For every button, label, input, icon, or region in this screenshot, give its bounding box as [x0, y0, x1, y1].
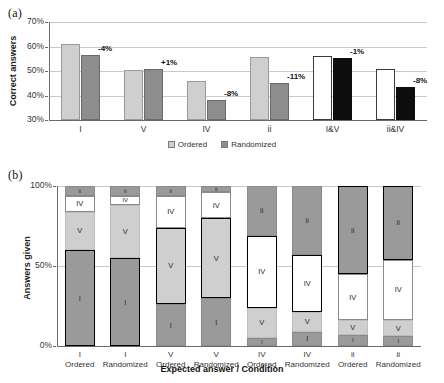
panel-b-x-expected-answer: I [79, 350, 81, 359]
panel-a-bar-V-randomized [144, 69, 163, 120]
panel-b-segment-ii: ii [292, 186, 322, 255]
panel-a-delta-label: -11% [287, 72, 305, 81]
panel-a-legend-label: Randomized [231, 140, 276, 149]
panel-a-delta-label: -1% [350, 47, 364, 56]
panel-a-y-tick: 70% [15, 16, 44, 26]
panel-b-segment-ii: ii [247, 186, 277, 236]
panel-b-segment-IV: IV [383, 260, 413, 321]
panel-a-bar-IV-ordered [187, 81, 206, 120]
panel-a-bar-I-V-ordered [313, 56, 332, 120]
panel-a-tick-mark [45, 120, 48, 121]
panel-b-segment-I: I [338, 335, 368, 346]
panel-b-segment-IV: IV [201, 192, 231, 218]
panel-b-segment-V: V [65, 212, 95, 250]
panel-b-y-axis [57, 186, 58, 346]
panel-a-delta-label: +1% [161, 58, 177, 67]
panel-b-x-expected-answer: V [214, 350, 219, 359]
panel-a-bar-I-V-randomized [333, 58, 352, 120]
panel-b-segment-ii: ii [201, 186, 231, 192]
panel-a-x-category: ii [238, 124, 301, 134]
legend-swatch-icon [221, 141, 228, 148]
panel-b-y-tick: 100% [21, 180, 52, 190]
panel-a-bar-ii-randomized [270, 83, 289, 120]
panel-b-segment-I: I [156, 304, 186, 346]
panel-b-x-expected-answer: ii [396, 350, 400, 359]
panel-a-bar-ii-IV-ordered [376, 69, 395, 120]
panel-a-x-category: I&V [301, 124, 364, 134]
panel-a-plot-area: 30%40%50%60%70%-4%I+1%V-8%IV-11%ii-1%I&V… [49, 22, 427, 120]
panel-a-bar-V-ordered [124, 70, 143, 120]
panel-a-delta-label: -8% [413, 76, 427, 85]
panel-a-tick-mark [45, 96, 48, 97]
panel-a-gridline [49, 120, 427, 121]
panel-b-segment-IV: IV [292, 255, 322, 313]
panel-a-gridline [49, 22, 427, 23]
legend-swatch-icon [168, 141, 175, 148]
panel-a-x-category: I [49, 124, 112, 134]
panel-b-segment-I: I [247, 338, 277, 346]
panel-a-x-category: ii&IV [364, 124, 427, 134]
panel-b-segment-IV: IV [65, 196, 95, 212]
panel-b-x-expected-answer: V [168, 350, 173, 359]
panel-b-segment-V: V [383, 320, 413, 336]
panel-a-gridline [49, 71, 427, 72]
panel-a-legend: OrderedRandomized [0, 140, 444, 149]
panel-b-segment-I: I [292, 332, 322, 346]
panel-b-segment-I: I [201, 298, 231, 346]
panel-a-bar-I-randomized [81, 55, 100, 120]
panel-b-x-expected-answer: I [124, 350, 126, 359]
panel-b-segment-V: V [201, 218, 231, 298]
panel-b-tick-mark [53, 266, 56, 267]
panel-a-y-axis [49, 22, 50, 120]
panel-b-segment-IV: IV [110, 196, 140, 206]
panel-b-segment-I: I [65, 250, 95, 346]
panel-b-segment-I: I [110, 258, 140, 346]
panel-b-x-expected-answer: IV [258, 350, 266, 359]
panel-b-plot-area: 0%50%100%IVIViiIOrderedIVIViiIRandomized… [57, 186, 421, 346]
panel-a-y-tick: 60% [15, 41, 44, 51]
panel-b-segment-V: V [156, 228, 186, 305]
panel-b-segment-V: V [292, 312, 322, 331]
panel-b-answers-given: (b) Answers given 0%50%100%IVIViiIOrdere… [0, 158, 444, 383]
panel-a-y-tick: 30% [15, 114, 44, 124]
panel-b-segment-IV: IV [247, 236, 277, 308]
panel-b-x-axis-title: Expected answer / Condition [0, 364, 444, 374]
panel-b-segment-IV: IV [338, 274, 368, 320]
panel-b-segment-ii: ii [383, 186, 413, 260]
panel-b-gridline [57, 346, 421, 347]
panel-b-segment-I: I [383, 336, 413, 346]
panel-b-x-expected-answer: ii [351, 350, 355, 359]
panel-b-segment-V: V [338, 320, 368, 334]
panel-a-bar-IV-randomized [207, 100, 226, 120]
panel-a-legend-label: Ordered [178, 140, 207, 149]
panel-b-segment-ii: ii [65, 186, 95, 196]
panel-b-tick-mark [53, 186, 56, 187]
panel-a-x-category: IV [175, 124, 238, 134]
panel-a-delta-label: -8% [224, 89, 238, 98]
panel-a-y-tick: 50% [15, 65, 44, 75]
panel-a-tick-mark [45, 71, 48, 72]
panel-a-x-category: V [112, 124, 175, 134]
panel-b-y-tick: 50% [21, 260, 52, 270]
panel-a-legend-item: Ordered [168, 140, 207, 149]
panel-b-y-tick: 0% [21, 340, 52, 350]
panel-a-tick-mark [45, 47, 48, 48]
panel-b-segment-ii: ii [110, 186, 140, 196]
panel-b-segment-IV: IV [156, 196, 186, 228]
panel-b-segment-ii: ii [338, 186, 368, 274]
panel-a-bar-ii-ordered [250, 57, 269, 120]
panel-b-segment-V: V [110, 205, 140, 258]
panel-a-legend-item: Randomized [221, 140, 276, 149]
panel-a-tick-mark [45, 22, 48, 23]
panel-b-segment-ii: ii [156, 186, 186, 196]
panel-b-segment-V: V [247, 308, 277, 338]
panel-a-bar-I-ordered [61, 44, 80, 120]
panel-a-bar-ii-IV-randomized [396, 87, 415, 120]
panel-a-correct-answers: (a) Correct answers 30%40%50%60%70%-4%I+… [0, 0, 444, 158]
panel-a-y-tick: 40% [15, 90, 44, 100]
panel-b-tick-mark [53, 346, 56, 347]
panel-a-delta-label: -4% [98, 44, 112, 53]
panel-b-x-expected-answer: IV [303, 350, 311, 359]
